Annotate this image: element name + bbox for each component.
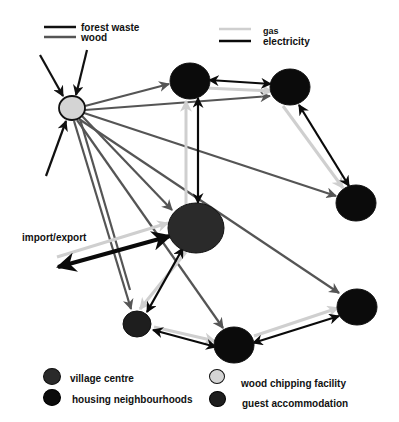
node-housing-neighbourhoods [337, 289, 377, 325]
legend-label-housing-neighbourhoods: housing neighbourhoods [72, 395, 193, 405]
edge-electricity [299, 105, 349, 186]
edge-electricity [147, 248, 183, 312]
import-export-label: import/export [22, 233, 86, 243]
edge-wood [85, 84, 169, 106]
edge-gas [140, 252, 186, 309]
edge-forest-waste [40, 55, 63, 96]
node-village-centre [168, 203, 224, 253]
edge-gas [205, 88, 272, 91]
edge-electricity [209, 80, 271, 84]
legend-label-village-centre: village centre [70, 374, 134, 384]
legend-label-electricity: electricity [263, 37, 310, 47]
edge-electricity [253, 316, 339, 343]
node-wood-chipping-facility [59, 96, 85, 120]
legend-dot-village-centre [43, 368, 61, 385]
edge-gas [283, 106, 343, 188]
legend-dot-wood-chipping-facility [209, 369, 225, 384]
node-housing-neighbourhoods [336, 185, 376, 221]
flow-diagram [0, 0, 399, 422]
legend-dot-guest-accommodation [209, 391, 226, 407]
node-housing-neighbourhoods [170, 63, 210, 99]
edge-gas [254, 308, 338, 336]
flow-legend-lines [44, 27, 251, 41]
node-guest-accommodation [123, 311, 151, 337]
node-housing-neighbourhoods [214, 327, 254, 363]
legend-label-guest-accommodation: guest accommodation [242, 399, 348, 409]
legend-label-gas: gas [263, 27, 279, 36]
legend-label-wood: wood [81, 33, 107, 43]
legend-label-wood-chipping-facility: wood chipping facility [241, 379, 346, 389]
edge-wood [80, 119, 130, 290]
edge-forest-waste [76, 50, 87, 95]
node-housing-neighbourhoods [270, 69, 310, 105]
edge-forest-waste [46, 121, 66, 176]
legend-dot-housing-neighbourhoods [43, 389, 61, 406]
